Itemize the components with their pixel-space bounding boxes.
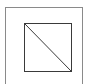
diagonal-line bbox=[25, 24, 72, 72]
inner-square-with-diagonal bbox=[0, 0, 89, 84]
